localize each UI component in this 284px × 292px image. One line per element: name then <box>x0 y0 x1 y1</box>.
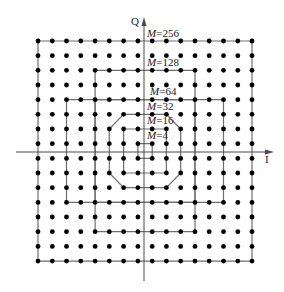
constellation-point <box>78 171 83 176</box>
constellation-point <box>193 229 198 234</box>
constellation-point <box>207 171 212 176</box>
constellation-point <box>250 259 255 264</box>
constellation-point <box>78 244 83 249</box>
constellation-point <box>250 141 255 146</box>
label-value: =4 <box>156 129 168 141</box>
constellation-point <box>78 156 83 161</box>
constellation-point <box>50 39 55 44</box>
constellation-point <box>64 171 69 176</box>
constellation-point <box>250 185 255 190</box>
constellation-point <box>178 244 183 249</box>
constellation-point <box>207 97 212 102</box>
constellation-point <box>221 244 226 249</box>
constellation-point <box>221 215 226 220</box>
constellation-point <box>235 156 240 161</box>
constellation-point <box>36 229 41 234</box>
constellation-point <box>221 112 226 117</box>
constellation-point <box>207 39 212 44</box>
constellation-point <box>50 244 55 249</box>
constellation-point <box>121 141 126 146</box>
constellation-point <box>250 127 255 132</box>
constellation-point <box>93 141 98 146</box>
constellation-point <box>207 200 212 205</box>
constellation-point <box>178 200 183 205</box>
constellation-point <box>193 127 198 132</box>
constellation-point <box>36 68 41 73</box>
constellation-point <box>250 200 255 205</box>
constellation-point <box>207 215 212 220</box>
constellation-point <box>136 112 141 117</box>
constellation-point <box>93 171 98 176</box>
constellation-point <box>93 156 98 161</box>
constellation-point <box>50 141 55 146</box>
constellation-point <box>107 53 112 58</box>
constellation-boundaries <box>38 41 252 261</box>
constellation-point <box>207 229 212 234</box>
constellation-point <box>93 97 98 102</box>
constellation-point <box>221 53 226 58</box>
constellation-point <box>136 200 141 205</box>
constellation-point <box>78 200 83 205</box>
constellation-point <box>36 97 41 102</box>
constellation-point <box>235 215 240 220</box>
constellation-point <box>207 83 212 88</box>
constellation-point <box>107 112 112 117</box>
constellation-point <box>93 127 98 132</box>
constellation-point <box>221 200 226 205</box>
constellation-point <box>150 185 155 190</box>
constellation-point <box>250 53 255 58</box>
constellation-point <box>107 259 112 264</box>
constellation-point <box>136 185 141 190</box>
constellation-point <box>221 83 226 88</box>
constellation-point <box>121 215 126 220</box>
constellation-point <box>64 39 69 44</box>
label-value: =32 <box>156 100 173 112</box>
constellation-point <box>93 39 98 44</box>
constellation-point <box>235 200 240 205</box>
constellation-point <box>64 259 69 264</box>
constellation-point <box>235 244 240 249</box>
constellation-point <box>36 200 41 205</box>
constellation-point <box>78 141 83 146</box>
constellation-point <box>250 156 255 161</box>
constellation-point <box>107 97 112 102</box>
boundary-m128 <box>67 70 224 231</box>
constellation-point <box>64 215 69 220</box>
constellation-point <box>250 215 255 220</box>
label-m64: M=64 <box>149 85 177 97</box>
constellation-point <box>93 112 98 117</box>
constellation-point <box>164 156 169 161</box>
constellation-point <box>107 215 112 220</box>
constellation-point <box>235 141 240 146</box>
boundary-m256 <box>38 41 252 261</box>
constellation-point <box>207 127 212 132</box>
constellation-point <box>93 68 98 73</box>
constellation-point <box>193 53 198 58</box>
constellation-point <box>36 244 41 249</box>
constellation-point <box>64 141 69 146</box>
constellation-point <box>121 259 126 264</box>
constellation-point <box>178 185 183 190</box>
constellation-point <box>121 171 126 176</box>
constellation-point <box>64 97 69 102</box>
constellation-point <box>221 259 226 264</box>
constellation-point <box>78 215 83 220</box>
constellation-point <box>121 83 126 88</box>
constellation-point <box>235 259 240 264</box>
constellation-point <box>207 53 212 58</box>
constellation-point <box>93 259 98 264</box>
label-value: =64 <box>159 85 177 97</box>
constellation-point <box>50 68 55 73</box>
constellation-point <box>235 171 240 176</box>
constellation-point <box>164 39 169 44</box>
constellation-point <box>93 53 98 58</box>
constellation-point <box>107 83 112 88</box>
constellation-point <box>36 53 41 58</box>
constellation-point <box>164 141 169 146</box>
constellation-point <box>193 244 198 249</box>
constellation-point <box>250 171 255 176</box>
axes: I Q <box>16 15 274 281</box>
constellation-point <box>121 185 126 190</box>
constellation-point <box>107 127 112 132</box>
constellation-point <box>136 259 141 264</box>
